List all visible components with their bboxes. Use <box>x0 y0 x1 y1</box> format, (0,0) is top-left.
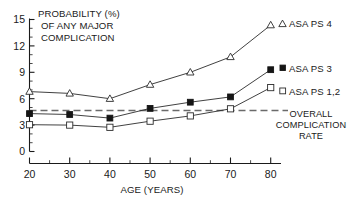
legend-label-asa-ps-3: ASA PS 3 <box>289 63 332 74</box>
x-tick-label-60: 60 <box>184 168 196 180</box>
chart-title-line-3: COMPLICATION <box>41 32 115 43</box>
data-point-marker <box>26 122 32 128</box>
x-tick-label-50: 50 <box>144 168 156 180</box>
legend-marker-asa-ps-3 <box>280 65 285 70</box>
y-tick-label-9: 9 <box>19 66 25 78</box>
overall-rate-label-line-2: COMPLICATION <box>276 120 346 130</box>
chart-title-line-2: OF ANY MAJOR <box>41 20 113 31</box>
x-tick-label-30: 30 <box>64 168 76 180</box>
x-axis-title: AGE (YEARS) <box>121 184 184 195</box>
y-tick-label-15: 15 <box>13 13 25 25</box>
data-point-marker <box>187 113 193 119</box>
data-point-marker <box>147 106 153 112</box>
x-tick-label-40: 40 <box>104 168 116 180</box>
y-tick-label-3: 3 <box>19 119 25 131</box>
legend-label-asa-ps-4: ASA PS 4 <box>289 18 332 29</box>
data-point-marker <box>107 124 113 130</box>
data-point-marker <box>107 115 113 121</box>
data-point-marker <box>268 85 274 91</box>
data-point-marker <box>187 99 193 105</box>
chart-figure: 0 3 6 9 12 15 <box>0 0 349 201</box>
data-point-marker <box>67 122 73 128</box>
overall-rate-label-line-3: RATE <box>299 131 323 141</box>
chart-title-line-1: PROBABILITY (%) <box>38 8 120 19</box>
overall-rate-label-line-1: OVERALL <box>289 109 332 119</box>
legend-marker-asa-ps-1-2 <box>280 88 286 94</box>
y-tick-label-0: 0 <box>19 145 25 157</box>
y-tick-label-12: 12 <box>13 40 25 52</box>
chart-svg: 0 3 6 9 12 15 <box>0 0 349 201</box>
x-tick-label-20: 20 <box>24 168 36 180</box>
data-point-marker <box>228 94 234 100</box>
data-point-marker <box>67 112 73 118</box>
chart-title: PROBABILITY (%) OF ANY MAJOR COMPLICATIO… <box>38 8 120 43</box>
data-point-marker <box>27 111 33 117</box>
y-tick-label-6: 6 <box>19 93 25 105</box>
x-tick-label-80: 80 <box>265 168 277 180</box>
data-point-marker <box>147 118 153 124</box>
legend-label-asa-ps-1-2: ASA PS 1,2 <box>289 86 340 97</box>
data-point-marker <box>227 106 233 112</box>
x-tick-label-70: 70 <box>225 168 237 180</box>
data-point-marker <box>268 67 274 73</box>
